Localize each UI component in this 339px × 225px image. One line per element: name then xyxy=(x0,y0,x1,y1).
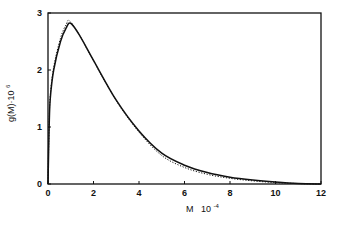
y-tick-label: 2 xyxy=(37,65,42,75)
y-axis-title: g(M)·10 6 xyxy=(5,84,16,122)
x-tick-label: 12 xyxy=(316,188,326,198)
x-tick-label: 10 xyxy=(270,188,280,198)
x-tick-label: 4 xyxy=(136,188,141,198)
x-tick-label: 0 xyxy=(45,188,50,198)
x-tick-label: 2 xyxy=(91,188,96,198)
y-tick-label: 0 xyxy=(37,179,42,189)
y-tick-label: 3 xyxy=(37,8,42,18)
plot-frame xyxy=(48,13,321,184)
dotted-curve xyxy=(48,20,321,184)
chart: 024681012 0123 M 10 -4 g(M)·10 6 xyxy=(0,0,339,225)
x-tick-label: 6 xyxy=(182,188,187,198)
x-tick-label: 8 xyxy=(227,188,232,198)
solid-curve xyxy=(48,23,321,184)
data-series xyxy=(48,20,321,184)
x-axis-title: M 10 -4 xyxy=(186,203,220,214)
y-tick-label: 1 xyxy=(37,122,42,132)
